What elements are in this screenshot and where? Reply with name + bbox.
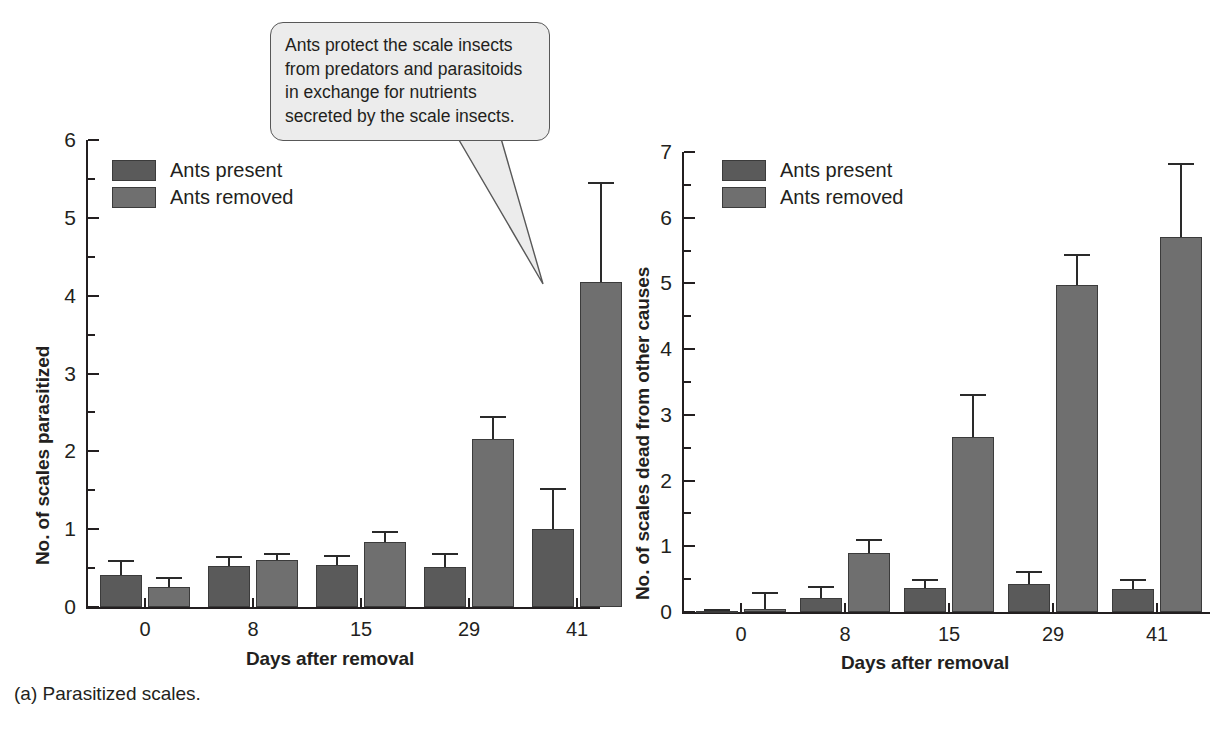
callout-line-0: Ants protect the scale insects: [285, 34, 535, 58]
callout-line-2: in exchange for nutrients: [285, 81, 535, 105]
callout-line-1: from predators and parasitoids: [285, 58, 535, 82]
callout-line-3: secreted by the scale insects.: [285, 105, 535, 129]
figure-root: 012345608152941 No. of scales parasitize…: [0, 0, 1221, 730]
callout-bubble: Ants protect the scale insects from pred…: [270, 22, 550, 141]
callout-tail: [0, 0, 1221, 730]
